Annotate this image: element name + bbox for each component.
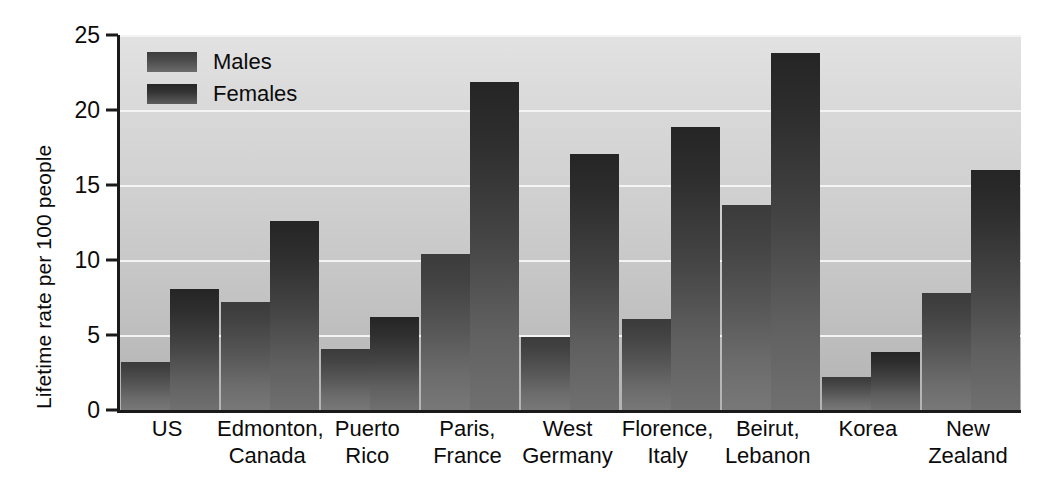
x-axis-label-line: Beirut, bbox=[718, 416, 818, 443]
bar-females bbox=[170, 289, 219, 411]
x-axis-label: WestGermany bbox=[517, 416, 617, 470]
bar-group bbox=[721, 35, 821, 410]
x-axis-label-line: Lebanon bbox=[718, 443, 818, 470]
legend-item-males: Males bbox=[147, 47, 367, 77]
bar-males bbox=[121, 362, 170, 410]
x-axis-label-line: Florence, bbox=[618, 416, 718, 443]
bar-males bbox=[722, 205, 771, 411]
legend-item-females: Females bbox=[147, 79, 367, 109]
x-axis-label: Edmonton,Canada bbox=[217, 416, 317, 470]
y-tick-label: 25 bbox=[74, 24, 100, 47]
x-axis-label-line: Italy bbox=[618, 443, 718, 470]
x-axis-label-line: France bbox=[417, 443, 517, 470]
x-axis-label: US bbox=[117, 416, 217, 443]
y-tick-label: 15 bbox=[74, 174, 100, 197]
bar-females bbox=[871, 352, 920, 411]
y-tick-label: 0 bbox=[87, 399, 100, 422]
bar-males bbox=[922, 293, 971, 410]
y-tick-label: 20 bbox=[74, 99, 100, 122]
bar-males bbox=[421, 254, 470, 410]
bar-females bbox=[270, 221, 319, 410]
x-axis-label: Paris,France bbox=[417, 416, 517, 470]
bar-group bbox=[921, 35, 1021, 410]
y-tick-label: 10 bbox=[74, 249, 100, 272]
x-axis-label-line: Zealand bbox=[918, 443, 1018, 470]
x-axis-labels: USEdmonton,CanadaPuertoRicoParis,FranceW… bbox=[117, 416, 1018, 480]
bar-males bbox=[321, 349, 370, 411]
x-axis-label-line: New bbox=[918, 416, 1018, 443]
bar-females bbox=[671, 127, 720, 411]
y-tick-label: 5 bbox=[87, 324, 100, 347]
x-axis-label: NewZealand bbox=[918, 416, 1018, 470]
y-axis-title-container: Lifetime rate per 100 people bbox=[0, 35, 40, 411]
plot-area: Males Females bbox=[117, 35, 1021, 413]
legend-label-females: Females bbox=[213, 83, 297, 105]
x-axis-label-line: Puerto bbox=[317, 416, 417, 443]
y-axis-ticks: 0510152025 bbox=[46, 0, 118, 483]
x-axis-label: PuertoRico bbox=[317, 416, 417, 470]
x-axis-label: Florence,Italy bbox=[618, 416, 718, 470]
legend-swatch-females-icon bbox=[147, 84, 197, 104]
bar-males bbox=[521, 337, 570, 411]
chart-figure: Lifetime rate per 100 people 0510152025 … bbox=[0, 0, 1044, 483]
bar-males bbox=[822, 377, 871, 410]
bar-females bbox=[771, 53, 820, 410]
legend: Males Females bbox=[147, 47, 367, 111]
bar-females bbox=[971, 170, 1020, 410]
bar-females bbox=[370, 317, 419, 410]
x-axis-label-line: Korea bbox=[818, 416, 918, 443]
bar-group bbox=[520, 35, 620, 410]
x-axis-label-line: Germany bbox=[517, 443, 617, 470]
bar-males bbox=[622, 319, 671, 411]
x-axis-label-line: US bbox=[117, 416, 217, 443]
legend-label-males: Males bbox=[213, 51, 272, 73]
bar-females bbox=[470, 82, 519, 411]
bar-group bbox=[420, 35, 520, 410]
x-axis-label-line: Paris, bbox=[417, 416, 517, 443]
x-axis-label-line: Rico bbox=[317, 443, 417, 470]
bar-females bbox=[570, 154, 619, 411]
bar-group bbox=[621, 35, 721, 410]
x-axis-label: Beirut,Lebanon bbox=[718, 416, 818, 470]
x-axis-label: Korea bbox=[818, 416, 918, 443]
x-axis-label-line: West bbox=[517, 416, 617, 443]
x-axis-label-line: Edmonton, bbox=[217, 416, 317, 443]
bar-group bbox=[821, 35, 921, 410]
x-axis-label-line: Canada bbox=[217, 443, 317, 470]
bar-males bbox=[221, 302, 270, 410]
legend-swatch-males-icon bbox=[147, 52, 197, 72]
